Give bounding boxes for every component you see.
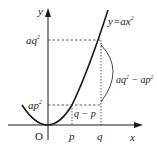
curve-equation-label: y=ax2 [107, 15, 134, 27]
origin-label: O [35, 130, 43, 142]
vertical-difference-label: aq2 − ap2 [116, 74, 154, 85]
aq2-label: aq2 [26, 34, 40, 46]
tick-q-label: q [97, 130, 103, 142]
tick-p-label: p [68, 130, 75, 142]
x-axis-label: x [129, 131, 135, 143]
parabola-diagram: y x O aq2 ap2 y=ax2 p q q − p aq2 − ap2 [0, 0, 157, 148]
x-axis-arrow-icon [134, 122, 143, 128]
y-axis-label: y [37, 5, 43, 17]
vertical-difference-brace [101, 45, 113, 102]
y-axis-arrow-icon [45, 8, 51, 17]
ap2-label: ap2 [28, 99, 42, 111]
horizontal-difference-label: q − p [74, 108, 96, 119]
